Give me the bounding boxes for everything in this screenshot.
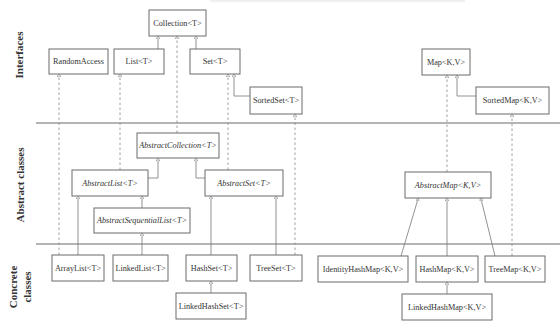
node-label: AbstractSequentialList<T> — [96, 216, 187, 225]
node-label: LinkedList<T> — [115, 264, 166, 273]
node-label: AbstractMap<K,V> — [414, 181, 481, 190]
node-array-list: ArrayList<T> — [52, 255, 104, 281]
edge-abstractlist-abstractcollection — [148, 159, 158, 178]
node-abstract-sequential-list: AbstractSequentialList<T> — [94, 208, 190, 233]
section-label-abstract-classes: Abstract classes — [14, 147, 26, 223]
edge-treemap-abstractmap — [481, 199, 495, 256]
section-label-concrete-line2: classes — [21, 271, 33, 303]
node-label: IdentityHashMap<K,V> — [323, 265, 404, 274]
node-set: Set<T> — [190, 49, 240, 74]
node-label: AbstractList<T> — [81, 179, 138, 188]
node-map: Map<K,V> — [422, 49, 470, 75]
node-label: RandomAccess — [53, 57, 104, 66]
node-label: TreeMap<K,V> — [489, 265, 542, 274]
node-label: List<T> — [126, 57, 153, 66]
node-label: AbstractCollection<T> — [138, 141, 216, 150]
node-label: LinkedHashSet<T> — [179, 302, 244, 311]
section-label-interfaces: Interfaces — [13, 31, 25, 79]
section-label-concrete-line1: Concrete — [7, 266, 19, 309]
node-abstract-map: AbstractMap<K,V> — [405, 172, 491, 198]
edge-abstractset-abstractcollection — [196, 159, 205, 178]
collections-hierarchy-diagram: Interfaces Abstract classes Concrete cla… — [0, 0, 560, 331]
node-label: SortedMap<K,V> — [483, 96, 543, 105]
node-label: Collection<T> — [153, 19, 202, 28]
node-sorted-set: SortedSet<T> — [250, 87, 302, 114]
edge-sortedset-set — [234, 75, 250, 96]
node-identity-hash-map: IdentityHashMap<K,V> — [318, 256, 408, 282]
node-sorted-map: SortedMap<K,V> — [476, 87, 549, 114]
node-label: AbstractSet<T> — [216, 179, 270, 188]
node-random-access: RandomAccess — [49, 49, 108, 74]
node-label: TreeSet<T> — [256, 264, 296, 273]
node-linked-hash-set: LinkedHashSet<T> — [176, 293, 246, 319]
node-label: HashMap<K,V> — [420, 265, 475, 274]
edge-identityhashmap-abstractmap — [401, 199, 418, 256]
node-tree-map: TreeMap<K,V> — [485, 256, 545, 282]
node-collection: Collection<T> — [149, 10, 206, 36]
node-label: SortedSet<T> — [253, 96, 299, 105]
node-label: HashSet<T> — [191, 264, 233, 273]
node-hash-map: HashMap<K,V> — [416, 256, 478, 282]
node-label: ArrayList<T> — [55, 264, 101, 273]
node-label: Map<K,V> — [427, 58, 465, 67]
node-abstract-collection: AbstractCollection<T> — [137, 133, 219, 158]
node-label: LinkedHashMap<K,V> — [408, 303, 487, 312]
node-list: List<T> — [114, 49, 164, 74]
node-abstract-list: AbstractList<T> — [72, 170, 148, 196]
node-linked-hash-map: LinkedHashMap<K,V> — [402, 294, 492, 320]
node-abstract-set: AbstractSet<T> — [205, 170, 283, 196]
node-linked-list: LinkedList<T> — [113, 255, 168, 281]
node-hash-set: HashSet<T> — [186, 255, 237, 281]
node-label: Set<T> — [203, 57, 228, 66]
edge-sortedmap-map — [457, 76, 476, 96]
node-tree-set: TreeSet<T> — [250, 255, 302, 281]
